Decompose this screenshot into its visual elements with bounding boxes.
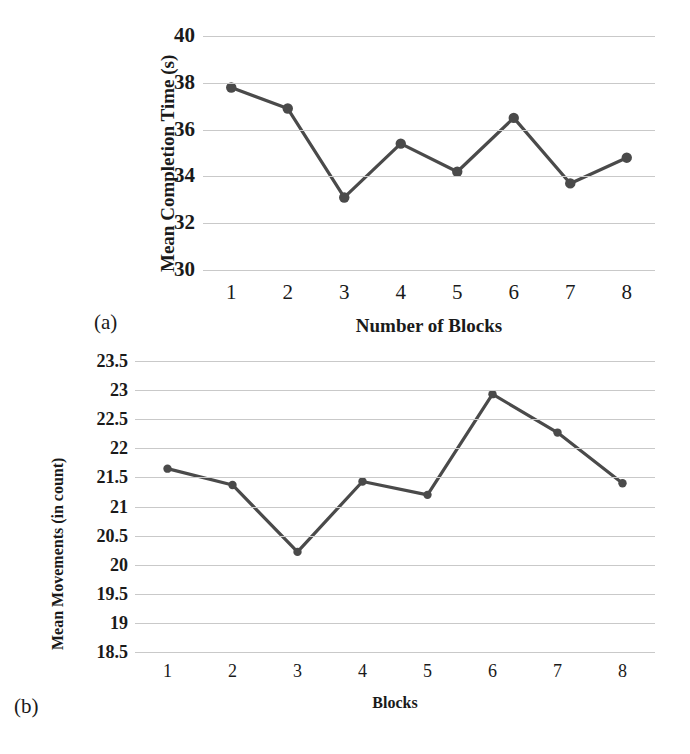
x-tick-label: 1 <box>148 662 188 680</box>
gridline <box>203 83 655 84</box>
data-point <box>396 138 406 148</box>
data-point <box>565 178 575 188</box>
gridline <box>135 448 655 449</box>
x-tick-label: 3 <box>324 282 364 303</box>
y-tick-label: 18.5 <box>58 643 128 661</box>
gridline <box>135 477 655 478</box>
data-point <box>553 428 561 436</box>
data-point <box>618 479 626 487</box>
gridline <box>135 507 655 508</box>
data-point <box>622 152 632 162</box>
y-tick-label: 20.5 <box>58 527 128 545</box>
y-axis-title-a: Mean Completion Time (s) <box>158 55 177 272</box>
x-tick-label: 2 <box>268 282 308 303</box>
x-tick-label: 5 <box>408 662 448 680</box>
panel-caption-a: (a) <box>94 312 117 333</box>
data-point <box>283 103 293 113</box>
gridline <box>135 419 655 420</box>
gridline <box>203 176 655 177</box>
data-point <box>509 113 519 123</box>
x-tick-label: 8 <box>607 282 647 303</box>
y-axis-title-b: Mean Movements (in count) <box>50 458 66 650</box>
y-tick-label: 19 <box>58 614 128 632</box>
y-tick-label: 19.5 <box>58 585 128 603</box>
gridline <box>203 130 655 131</box>
series-markers-b <box>163 390 626 556</box>
series-line-b <box>168 394 623 552</box>
x-tick-label: 3 <box>278 662 318 680</box>
gridline <box>135 594 655 595</box>
gridline <box>135 565 655 566</box>
data-point <box>423 491 431 499</box>
plot-area-a <box>203 36 655 270</box>
x-tick-label: 4 <box>381 282 421 303</box>
data-point <box>226 82 236 92</box>
x-tick-label: 5 <box>437 282 477 303</box>
x-tick-label: 7 <box>550 282 590 303</box>
y-tick-label: 21 <box>58 498 128 516</box>
plot-area-b <box>135 361 655 652</box>
data-point <box>488 390 496 398</box>
panel-caption-b: (b) <box>14 696 39 717</box>
data-point <box>452 167 462 177</box>
x-tick-label: 6 <box>494 282 534 303</box>
x-tick-label: 4 <box>343 662 383 680</box>
gridline <box>135 390 655 391</box>
series-markers-a <box>226 82 632 202</box>
chart-panel-b: 23.52322.52221.52120.52019.51918.5 12345… <box>0 340 690 754</box>
data-point <box>163 464 171 472</box>
figure-two-line-charts: 403836343230 12345678 Number of Blocks M… <box>0 0 690 754</box>
gridline <box>203 223 655 224</box>
y-tick-label: 23.5 <box>58 352 128 370</box>
data-point <box>228 481 236 489</box>
y-tick-label: 40 <box>135 25 195 46</box>
gridline <box>135 536 655 537</box>
x-tick-label: 7 <box>538 662 578 680</box>
gridline <box>135 361 655 362</box>
data-point <box>358 477 366 485</box>
gridline <box>203 36 655 37</box>
y-tick-label: 22.5 <box>58 410 128 428</box>
chart-panel-a: 403836343230 12345678 Number of Blocks M… <box>0 0 690 340</box>
gridline <box>203 270 655 271</box>
x-tick-label: 8 <box>603 662 643 680</box>
y-tick-label: 22 <box>58 439 128 457</box>
y-tick-label: 21.5 <box>58 468 128 486</box>
data-point <box>293 548 301 556</box>
x-axis-title-b: Blocks <box>135 695 655 711</box>
data-point <box>339 192 349 202</box>
gridline <box>135 623 655 624</box>
x-tick-label: 1 <box>211 282 251 303</box>
gridline <box>135 652 655 653</box>
x-tick-label: 2 <box>213 662 253 680</box>
x-axis-title-a: Number of Blocks <box>203 316 655 335</box>
series-a <box>203 36 655 270</box>
y-tick-label: 23 <box>58 381 128 399</box>
y-tick-label: 20 <box>58 556 128 574</box>
x-tick-label: 6 <box>473 662 513 680</box>
